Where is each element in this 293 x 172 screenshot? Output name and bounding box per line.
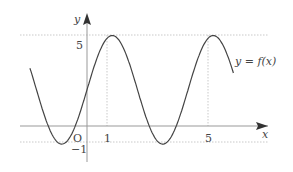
axes bbox=[20, 18, 268, 162]
x-axis-label: x bbox=[262, 128, 269, 141]
y-tick-5: 5 bbox=[76, 39, 83, 52]
x-tick-5: 5 bbox=[205, 132, 212, 145]
y-tick-neg1: −1 bbox=[71, 143, 87, 156]
graph-figure: y x O 1 5 5 −1 y = f(x) bbox=[0, 0, 293, 172]
plot: y x O 1 5 5 −1 y = f(x) bbox=[0, 0, 293, 172]
x-tick-1: 1 bbox=[104, 132, 111, 145]
function-label: y = f(x) bbox=[234, 55, 276, 68]
function-curve bbox=[30, 36, 234, 145]
y-axis-label: y bbox=[73, 13, 81, 26]
